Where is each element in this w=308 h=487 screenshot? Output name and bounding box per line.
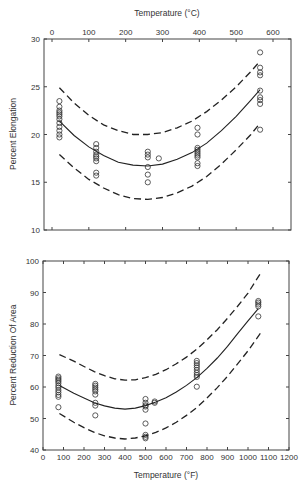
y-tick-label: 70 [30, 352, 39, 361]
fit-curve [59, 309, 258, 410]
data-point [156, 156, 161, 161]
x-tick-label: 1100 [260, 453, 278, 462]
x-tick-label: 900 [221, 453, 235, 462]
x-tick-label: 700 [180, 453, 194, 462]
data-point [258, 50, 263, 55]
x-tick-label: 100 [57, 453, 71, 462]
x-tick-label: 200 [119, 28, 133, 37]
x-tick-label: 400 [118, 453, 132, 462]
confidence-bound-line [59, 274, 260, 381]
charts-canvas: 10152025300100200300400500600 4050607080… [0, 0, 308, 487]
x-tick-label: 600 [266, 28, 280, 37]
data-point [145, 180, 150, 185]
data-point [93, 413, 98, 418]
data-point [145, 172, 150, 177]
data-point [143, 421, 148, 426]
top-x-axis-title: Temperature (°C) [134, 8, 199, 18]
data-point [258, 127, 263, 132]
x-tick-label: 200 [77, 453, 91, 462]
x-tick-label: 800 [200, 453, 214, 462]
data-point [57, 99, 62, 104]
figure: 10152025300100200300400500600 4050607080… [0, 0, 308, 487]
y-tick-label: 30 [31, 35, 40, 44]
x-tick-label: 100 [82, 28, 96, 37]
data-point [145, 164, 150, 169]
fit-curve [59, 90, 260, 166]
y-tick-label: 50 [30, 415, 39, 424]
y-tick-label: 60 [30, 383, 39, 392]
y-tick-label: 90 [30, 289, 39, 298]
x-tick-label: 400 [193, 28, 207, 37]
top-y-axis-title: Percent Elongation [8, 98, 18, 170]
bottom-x-axis-title: Temperature (°F) [134, 470, 199, 480]
x-tick-label: 1000 [239, 453, 257, 462]
data-point [195, 132, 200, 137]
y-tick-label: 25 [31, 83, 40, 92]
data-point [258, 101, 263, 106]
data-point [93, 392, 98, 397]
x-tick-label: 500 [139, 453, 153, 462]
y-tick-label: 40 [30, 446, 39, 455]
data-point [194, 384, 199, 389]
data-point [56, 405, 61, 410]
y-tick-label: 15 [31, 178, 40, 187]
elongation-plot: 10152025300100200300400500600 [31, 28, 291, 235]
x-tick-label: 0 [41, 453, 46, 462]
x-tick-label: 600 [159, 453, 173, 462]
y-tick-label: 10 [31, 226, 40, 235]
data-point [195, 125, 200, 130]
data-point [256, 314, 261, 319]
x-tick-label: 1200 [280, 453, 298, 462]
y-tick-label: 100 [26, 257, 40, 266]
reduction-of-area-plot: 4050607080901000100200300400500600700800… [26, 257, 299, 462]
plot-frame [43, 261, 289, 450]
confidence-bound-line [59, 61, 260, 135]
y-tick-label: 20 [31, 131, 40, 140]
y-tick-label: 80 [30, 320, 39, 329]
confidence-bound-line [59, 333, 260, 439]
x-tick-label: 500 [229, 28, 243, 37]
x-tick-label: 0 [50, 28, 55, 37]
x-tick-label: 300 [156, 28, 170, 37]
x-tick-label: 300 [98, 453, 112, 462]
bottom-y-axis-title: Percent Reduction Of Area [8, 304, 18, 405]
